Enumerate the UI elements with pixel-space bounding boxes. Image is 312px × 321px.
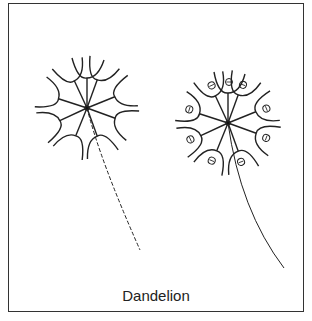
dandelion-left	[35, 56, 140, 250]
diagram-canvas	[0, 0, 312, 321]
figure-caption: Dandelion	[0, 287, 312, 304]
dandelion-right	[175, 70, 284, 268]
